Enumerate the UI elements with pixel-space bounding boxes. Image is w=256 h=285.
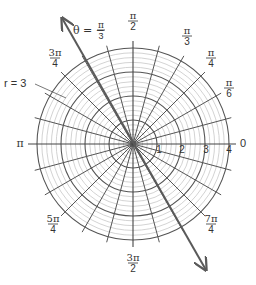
angle-label-5pi-4: 5π4 <box>47 213 60 235</box>
svg-text:3: 3 <box>184 36 190 47</box>
spoke <box>133 118 231 144</box>
svg-text:5π: 5π <box>47 213 60 224</box>
radius-label-3: 3 <box>203 144 209 155</box>
svg-text:2: 2 <box>130 263 136 274</box>
angle-label-3pi-2: 3π2 <box>127 252 140 274</box>
svg-text:6: 6 <box>226 88 232 99</box>
svg-text:4: 4 <box>208 224 214 235</box>
svg-text:3π: 3π <box>127 252 140 263</box>
spoke <box>133 144 159 242</box>
svg-text:3: 3 <box>98 31 103 41</box>
spoke <box>35 144 133 170</box>
svg-text:π: π <box>184 25 191 36</box>
radius-label-4: 4 <box>226 144 232 155</box>
angle-label-pi-6: π6 <box>224 77 234 99</box>
angle-label-pi: π <box>16 137 23 150</box>
svg-text:4: 4 <box>52 58 58 69</box>
svg-text:3π: 3π <box>49 47 62 58</box>
radius-label-2: 2 <box>179 144 185 155</box>
angle-label-pi-3: π3 <box>182 25 192 47</box>
svg-text:π: π <box>226 77 233 88</box>
svg-text:4: 4 <box>50 224 56 235</box>
r-equals-3-annotation: r = 3 <box>4 77 26 89</box>
angle-label-pi-4: π4 <box>206 47 216 69</box>
svg-text:π: π <box>130 10 137 21</box>
svg-text:π: π <box>208 47 215 58</box>
radius-label-1: 1 <box>156 144 162 155</box>
angle-label-3pi-4: 3π4 <box>49 47 62 69</box>
svg-text:2: 2 <box>130 21 136 32</box>
angle-label-zero: 0 <box>240 137 246 149</box>
angle-label-7pi-4: 7π4 <box>205 213 218 235</box>
spoke <box>107 144 133 242</box>
polar-grid-diagram: 12340π6π4π3π23π4π5π43π27π4θ = −π3r = 3 <box>0 0 256 285</box>
spoke <box>107 46 133 144</box>
spoke <box>35 118 133 144</box>
theta-annotation: θ = −π3 <box>73 20 105 41</box>
svg-text:π: π <box>98 20 104 30</box>
svg-text:4: 4 <box>208 58 214 69</box>
angle-label-pi-2: π2 <box>128 10 138 32</box>
svg-text:7π: 7π <box>205 213 218 224</box>
spoke <box>133 46 159 144</box>
